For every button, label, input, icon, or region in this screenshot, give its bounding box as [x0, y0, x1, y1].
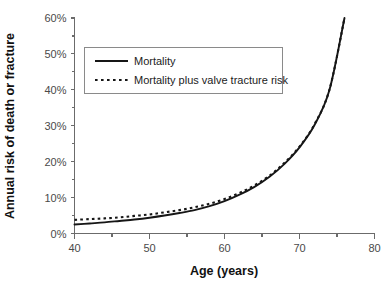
- x-tick-label-40: 40: [68, 242, 80, 254]
- x-tick-label-80: 80: [368, 242, 380, 254]
- y-tick-label-0%: 0%: [51, 228, 67, 240]
- y-tick-label-10%: 10%: [44, 192, 66, 204]
- x-axis-title: Age (years): [190, 264, 258, 278]
- legend-label-mortality-plus-valve-tracture-risk: Mortality plus valve tracture risk: [134, 74, 289, 86]
- y-tick-label-50%: 50%: [44, 48, 66, 60]
- y-axis-title: Annual risk of death or fracture: [3, 33, 17, 219]
- y-axis-tick-labels: 0%10%20%30%40%50%60%: [44, 12, 66, 240]
- y-tick-label-30%: 30%: [44, 120, 66, 132]
- risk-vs-age-line-chart: 0%10%20%30%40%50%60% 4050607080 Mortalit…: [0, 0, 385, 285]
- x-tick-label-50: 50: [143, 242, 155, 254]
- chart-container: 0%10%20%30%40%50%60% 4050607080 Mortalit…: [0, 0, 385, 285]
- x-axis: 4050607080: [68, 234, 380, 254]
- y-axis: 0%10%20%30%40%50%60%: [44, 12, 74, 240]
- legend-box: [85, 48, 283, 94]
- y-tick-label-20%: 20%: [44, 156, 66, 168]
- y-tick-label-40%: 40%: [44, 84, 66, 96]
- x-axis-ticks: [75, 234, 375, 239]
- y-axis-ticks: [71, 18, 75, 234]
- x-tick-label-60: 60: [218, 242, 230, 254]
- x-tick-label-70: 70: [293, 242, 305, 254]
- y-tick-label-60%: 60%: [44, 12, 66, 24]
- legend-label-mortality: Mortality: [134, 55, 176, 67]
- chart-legend: Mortality Mortality plus valve tracture …: [85, 48, 289, 94]
- x-axis-tick-labels: 4050607080: [68, 242, 380, 254]
